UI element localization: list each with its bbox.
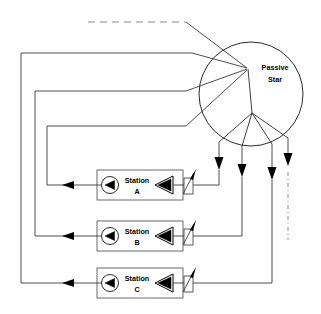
downlink-c-arrowhead: [268, 167, 277, 180]
station-a-laser-source-icon: [184, 178, 193, 194]
station-a-laser-arrow-icon: [190, 169, 196, 180]
station-c-laser-source-icon: [184, 276, 193, 292]
downlink-b-arrowhead: [238, 164, 247, 177]
station-b-label-line1: Station: [125, 227, 149, 236]
star-hub-link: [248, 69, 252, 113]
downlink-a-arrowhead: [215, 157, 224, 170]
station-c-label-line2: C: [134, 285, 139, 294]
diagram-canvas: Passive Star: [0, 0, 321, 314]
station-a-receive-path: [47, 126, 95, 185]
station-b-group[interactable]: Station B: [95, 220, 196, 251]
station-b-return-path: [188, 177, 242, 236]
downlink-extra-arrowhead: [284, 153, 293, 166]
station-b-laser-source-icon: [184, 229, 193, 245]
downlink-vertical-group: [215, 138, 293, 240]
passive-star-circle: [199, 42, 303, 146]
transmit-return-routing: [188, 170, 272, 283]
passive-star-label-line1: Passive: [262, 63, 289, 72]
station-c-return-path: [188, 180, 272, 283]
station-c-label-line1: Station: [125, 274, 149, 283]
station-a-group[interactable]: Station A: [95, 169, 196, 200]
station-c-receive-path: [21, 53, 95, 283]
uplink-trunk-group: [21, 53, 247, 126]
station-a-label-line1: Station: [125, 176, 149, 185]
station-a-receive-arrowhead: [62, 181, 74, 189]
station-a-label-line2: A: [134, 187, 139, 196]
station-b-receive-arrowhead: [62, 232, 74, 240]
passive-star-coupler: Passive Star: [199, 42, 303, 146]
station-b-laser-arrow-icon: [190, 220, 196, 231]
station-b-receive-path: [35, 91, 95, 236]
passive-star-network-diagram: Passive Star: [0, 0, 321, 314]
station-c-laser-arrow-icon: [190, 267, 196, 278]
receive-routing: [21, 53, 95, 287]
station-b-label-line2: B: [134, 238, 139, 247]
station-c-group[interactable]: Station C: [95, 267, 196, 298]
station-c-receive-arrowhead: [62, 279, 74, 287]
passive-star-label-line2: Star: [268, 75, 282, 84]
